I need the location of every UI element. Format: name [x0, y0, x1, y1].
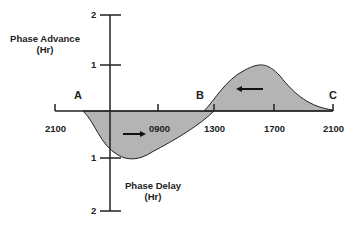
point-b-label: B [196, 89, 204, 101]
xtick-0900: 0900 [149, 123, 170, 134]
ytick-bottom-1: 1 [91, 152, 96, 163]
point-a-label: A [74, 89, 82, 101]
y-label-delay: Phase Delay (Hr) [118, 180, 188, 202]
ytick-top-2: 2 [91, 9, 96, 20]
xtick-1300: 1300 [204, 123, 225, 134]
xtick-1700: 1700 [264, 123, 285, 134]
y-label-advance: Phase Advance (Hr) [6, 33, 84, 55]
phase-response-chart: Phase Advance (Hr) Phase Delay (Hr) 2 1 … [0, 0, 357, 226]
point-c-label: C [329, 89, 337, 101]
ytick-bottom-2: 2 [91, 205, 96, 216]
xtick-2100-start: 2100 [45, 123, 66, 134]
phase-advance-area [204, 65, 333, 111]
xtick-2100-end: 2100 [323, 123, 344, 134]
ytick-top-1: 1 [91, 59, 96, 70]
phase-delay-area [83, 111, 214, 159]
